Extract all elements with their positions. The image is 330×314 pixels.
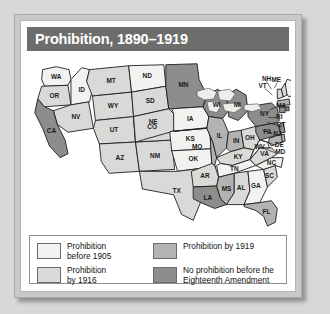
state-label-ri: RI [276,113,283,120]
state-label-sd: SD [146,97,155,104]
legend-label-no-prohibition: No prohibition before the Eighteenth Ame… [183,266,274,285]
state-label-va: VA [260,150,269,157]
state-label-pa: PA [263,128,272,135]
legend-item-by-1916: Prohibition by 1916 [37,266,149,285]
us-prohibition-map: WAORIDMTWYNVUTCAAZNMCONDSDNEKSOKTXMNIAMO… [25,54,291,230]
page-title: Prohibition, 1890–1919 [27,31,188,47]
state-label-la: LA [204,194,213,201]
state-fl [244,201,277,226]
state-label-ky: KY [234,153,244,160]
state-label-nc: NC [267,159,277,166]
legend-swatch-no-prohibition [153,267,177,283]
state-label-nm: NM [150,152,160,159]
state-label-me: ME [272,76,282,83]
figure-frame: Prohibition, 1890–1919 WAORIDMTWYNVUTCAA… [14,14,302,298]
legend-swatch-before-1905 [37,243,61,259]
legend-label-by-1916: Prohibition by 1916 [67,266,106,285]
state-label-tx: TX [172,187,181,194]
state-label-nd: ND [143,72,153,79]
state-label-ms: MS [222,185,232,192]
state-label-in: IN [233,137,240,144]
legend-label-by-1919: Prohibition by 1919 [183,242,254,252]
state-label-sc: SC [265,172,274,179]
state-shapes [35,64,291,226]
state-label-ks: KS [186,135,196,142]
legend-grid: Prohibition before 1905Prohibition by 19… [37,242,281,285]
state-label-il: IL [217,132,223,139]
legend-item-no-prohibition: No prohibition before the Eighteenth Ame… [153,266,281,285]
state-label-wy: WY [108,102,119,109]
state-label-tn: TN [230,165,239,172]
map-svg: WAORIDMTWYNVUTCAAZNMCONDSDNEKSOKTXMNIAMO… [25,54,291,230]
state-label-mt: MT [106,77,115,84]
state-label-mn: MN [178,81,188,88]
state-label-al: AL [237,184,246,191]
title-bar: Prohibition, 1890–1919 [27,27,289,51]
figure-panel: Prohibition, 1890–1919 WAORIDMTWYNVUTCAA… [20,20,296,292]
state-label-ar: AR [200,172,210,179]
state-label-ut: UT [110,126,119,133]
state-label-md: MD [275,148,285,155]
state-label-wi: WI [213,101,221,108]
state-label-nv: NV [71,113,81,120]
legend-swatch-by-1919 [153,243,177,259]
state-label-ne: NE [149,118,159,125]
state-label-oh: OH [245,134,255,141]
legend-item-by-1919: Prohibition by 1919 [153,242,281,261]
state-label-vt: VT [259,82,267,89]
legend-label-before-1905: Prohibition before 1905 [67,242,111,261]
state-label-ca: CA [47,127,57,134]
state-label-ny: NY [260,110,270,117]
state-label-ok: OK [188,155,198,162]
map-legend: Prohibition before 1905Prohibition by 19… [29,235,287,284]
state-label-mi: MI [234,101,241,108]
state-label-ct: CT [277,121,286,128]
state-label-or: OR [50,92,60,99]
state-label-id: ID [79,86,86,93]
legend-item-before-1905: Prohibition before 1905 [37,242,149,261]
state-label-ia: IA [187,115,194,122]
state-ri [286,107,289,111]
state-label-nj: NJ [273,130,282,137]
state-label-ga: GA [251,182,261,189]
state-label-mo: MO [192,143,202,150]
state-label-az: AZ [116,154,125,161]
state-label-fl: FL [263,208,271,215]
legend-swatch-by-1916 [37,267,61,283]
state-label-wa: WA [51,73,62,80]
state-label-ma: MA [276,102,286,109]
state-label-de: DE [275,141,285,148]
